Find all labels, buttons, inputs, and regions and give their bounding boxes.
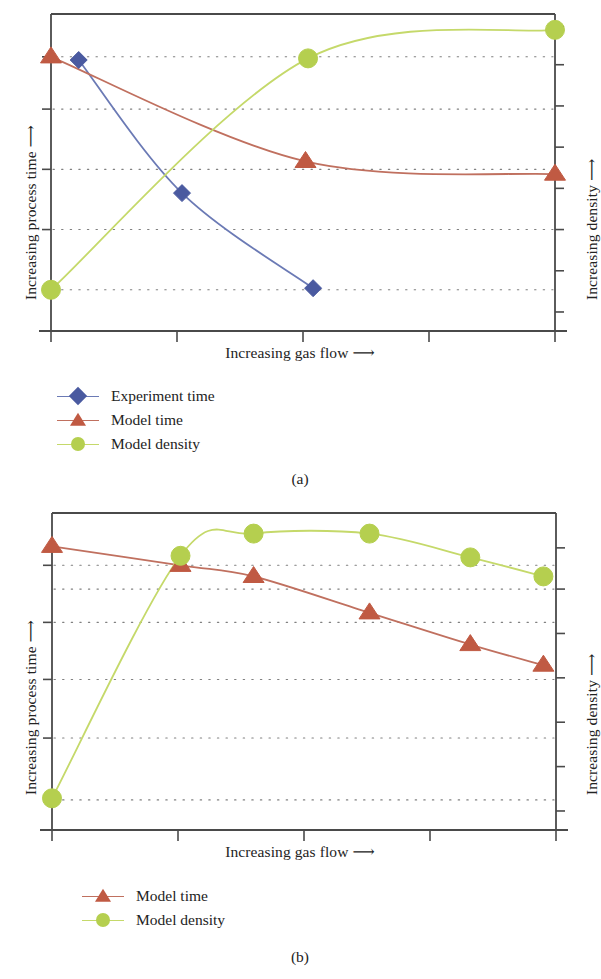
circle-marker-icon	[461, 548, 480, 567]
circle-marker-icon	[546, 20, 565, 39]
legend-item-model-time[interactable]: Model time	[80, 885, 225, 907]
triangle-marker-icon	[42, 536, 63, 552]
arrow-right-icon: ⟶	[583, 159, 600, 181]
legend-item-experiment-time[interactable]: Experiment time	[55, 385, 215, 407]
series-line	[52, 530, 543, 799]
chart-a-ylabel-left: Increasing process time ⟶	[22, 125, 40, 300]
series-model-density	[52, 530, 543, 799]
chart-panel-a: Increasing process time ⟶ Increasing den…	[0, 0, 600, 500]
chart-b-plot	[0, 500, 600, 870]
legend-label-model-density: Model density	[136, 911, 225, 929]
circle-marker-icon	[171, 546, 190, 565]
circle-marker-icon	[360, 524, 379, 543]
chart-b-legend: Model time Model density	[80, 885, 225, 931]
chart-b-caption: (b)	[0, 948, 600, 966]
legend-key-model-time	[80, 885, 126, 907]
circle-marker-icon	[534, 567, 553, 586]
chart-a-ylabel-right-text: Increasing density	[583, 185, 600, 300]
legend-label-model-time: Model time	[136, 887, 208, 905]
triangle-marker-icon	[41, 47, 62, 63]
chart-a-legend: Experiment time Model time Model density	[55, 385, 215, 455]
circle-marker-icon	[244, 524, 263, 543]
chart-b-ylabel-right-text: Increasing density	[583, 680, 600, 795]
circle-marker-icon	[43, 789, 62, 808]
triangle-marker-icon	[545, 164, 566, 180]
series-markers-model-density	[43, 524, 553, 808]
legend-item-model-time[interactable]: Model time	[55, 409, 215, 431]
arrow-right-icon: ⟶	[22, 620, 39, 642]
diamond-marker-icon	[305, 280, 322, 297]
legend-key-model-density	[80, 909, 126, 931]
legend-label-model-time: Model time	[111, 411, 183, 429]
legend-label-model-density: Model density	[111, 435, 200, 453]
chart-b-ylabel-left: Increasing process time ⟶	[22, 620, 40, 795]
legend-item-model-density[interactable]: Model density	[55, 433, 215, 455]
legend-item-model-density[interactable]: Model density	[80, 909, 225, 931]
series-markers-experiment-time	[70, 52, 321, 297]
chart-b-xlabel-text: Increasing gas flow	[225, 843, 348, 860]
circle-marker-icon	[71, 437, 85, 451]
chart-a-caption: (a)	[0, 470, 600, 488]
chart-panel-b: Increasing process time ⟶ Increasing den…	[0, 500, 600, 979]
arrow-right-icon: ⟶	[352, 344, 374, 361]
legend-key-model-density	[55, 433, 101, 455]
legend-label-experiment-time: Experiment time	[111, 387, 215, 405]
arrow-right-icon: ⟶	[22, 125, 39, 147]
triangle-marker-icon	[70, 413, 86, 426]
chart-a-xlabel-text: Increasing gas flow	[225, 344, 348, 361]
chart-b-ylabel-left-text: Increasing process time	[22, 646, 39, 795]
circle-marker-icon	[42, 280, 61, 299]
chart-a-ylabel-right: Increasing density ⟶	[583, 159, 601, 300]
legend-key-model-time	[55, 409, 101, 431]
series-experiment-time	[79, 60, 313, 288]
chart-a-xlabel: Increasing gas flow ⟶	[0, 344, 600, 362]
chart-b-ylabel-right: Increasing density ⟶	[583, 654, 601, 795]
arrow-right-icon: ⟶	[352, 843, 374, 860]
triangle-marker-icon	[95, 889, 111, 902]
chart-a-plot	[0, 0, 600, 370]
series-line	[79, 60, 313, 288]
circle-marker-icon	[96, 913, 110, 927]
circle-marker-icon	[299, 49, 318, 68]
chart-b-xlabel: Increasing gas flow ⟶	[0, 843, 600, 861]
chart-a-ylabel-left-text: Increasing process time	[22, 151, 39, 300]
diamond-marker-icon	[69, 387, 87, 405]
arrow-right-icon: ⟶	[583, 654, 600, 676]
legend-key-experiment-time	[55, 385, 101, 407]
